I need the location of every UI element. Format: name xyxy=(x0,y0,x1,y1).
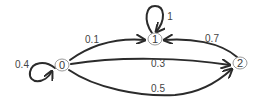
edge-label-0-to-2-upper: 0.3 xyxy=(151,58,165,69)
edge-1-to-1 xyxy=(147,6,163,33)
node-1-label: 1 xyxy=(152,33,158,45)
edge-label-0-to-2-lower: 0.5 xyxy=(151,83,165,94)
edge-0-to-1 xyxy=(70,40,145,60)
node-0-label: 0 xyxy=(59,59,65,71)
edge-label-0-to-0: 0.4 xyxy=(15,59,29,70)
node-2: 2 xyxy=(233,57,247,69)
edge-0-to-0 xyxy=(30,63,55,81)
edge-label-1-to-1: 1 xyxy=(167,11,173,22)
state-diagram: 0 1 2 0.4 0.1 0.3 0.5 1 0.7 xyxy=(0,0,264,101)
node-1: 1 xyxy=(148,33,162,45)
node-2-label: 2 xyxy=(237,57,243,69)
node-0: 0 xyxy=(55,59,69,71)
edge-label-2-to-1: 0.7 xyxy=(205,33,219,44)
edge-label-0-to-1: 0.1 xyxy=(85,34,99,45)
edge-2-to-1 xyxy=(164,40,237,57)
